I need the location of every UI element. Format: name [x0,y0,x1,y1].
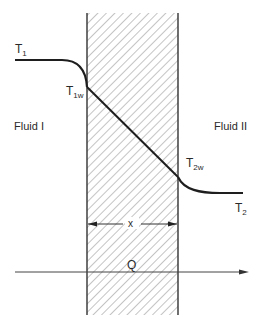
label-t1w: T1w [66,84,84,100]
label-fluid-2: Fluid II [214,120,247,132]
temperature-profile-fluid-2 [178,177,243,193]
label-fluid-1: Fluid I [14,120,44,132]
label-t2: T2 [235,201,247,217]
label-t2w: T2w [186,156,204,172]
label-t1: T1 [15,42,27,58]
label-thickness: x [128,218,133,229]
heat-transfer-diagram: T1 T1w T2w T2 Fluid I Fluid II x Q [0,0,261,328]
label-heat-flow: Q [127,258,136,272]
arrowhead-right-icon [239,270,249,275]
temperature-profile-fluid-1 [15,60,87,87]
